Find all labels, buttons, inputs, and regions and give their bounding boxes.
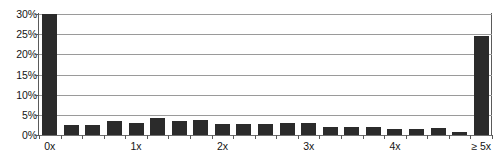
x-tick-mark: [298, 135, 299, 139]
y-tick-mark-5%: [35, 115, 39, 116]
bar: [323, 127, 338, 135]
bar: [280, 123, 295, 135]
y-tick-label-10%: 10%: [1, 90, 37, 100]
y-tick-mark-15%: [35, 75, 39, 76]
x-tick-label-2x: 2x: [217, 140, 228, 152]
gridline-10: [39, 95, 492, 96]
y-tick-label-30%: 30%: [1, 9, 37, 19]
plot-area: [39, 14, 492, 135]
y-tick-mark-20%: [35, 54, 39, 55]
y-tick-label-5%: 5%: [1, 110, 37, 120]
bar: [42, 14, 57, 135]
y-tick-mark-0%: [35, 135, 39, 136]
gridline-25: [39, 34, 492, 35]
x-tick-mark: [147, 135, 148, 139]
bar: [215, 124, 230, 135]
y-axis-labels: 0%5%10%15%20%25%30%: [0, 0, 37, 160]
x-tick-mark: [233, 135, 234, 139]
y-tick-mark-10%: [35, 95, 39, 96]
gridline-30: [39, 14, 492, 15]
bar-chart: 0%5%10%15%20%25%30% 0x1x2x3x4x≥ 5x: [0, 0, 497, 160]
bar: [301, 123, 316, 135]
x-tick-mark: [168, 135, 169, 139]
y-tick-label-20%: 20%: [1, 49, 37, 59]
bar: [236, 124, 251, 135]
y-tick-label-15%: 15%: [1, 70, 37, 80]
x-tick-mark: [363, 135, 364, 139]
x-tick-mark: [427, 135, 428, 139]
x-tick-mark: [190, 135, 191, 139]
x-tick-label-0x: 0x: [44, 140, 55, 152]
bar: [258, 124, 273, 135]
bar: [366, 127, 381, 135]
x-tick-mark: [492, 135, 493, 139]
x-tick-mark: [82, 135, 83, 139]
x-tick-mark: [319, 135, 320, 139]
x-tick-mark: [61, 135, 62, 139]
x-tick-mark: [384, 135, 385, 139]
x-tick-mark: [125, 135, 126, 139]
y-tick-label-0%: 0%: [1, 130, 37, 140]
bar: [193, 120, 208, 135]
y-tick-mark-30%: [35, 14, 39, 15]
bar: [172, 121, 187, 135]
bar: [129, 123, 144, 135]
x-tick-mark: [470, 135, 471, 139]
x-tick-label-4x: 4x: [389, 140, 400, 152]
x-tick-mark: [276, 135, 277, 139]
x-tick-label-1x: 1x: [131, 140, 142, 152]
x-tick-mark: [255, 135, 256, 139]
bar: [85, 125, 100, 135]
x-tick-mark: [212, 135, 213, 139]
x-axis-labels: 0x1x2x3x4x≥ 5x: [0, 140, 497, 160]
x-tick-mark: [406, 135, 407, 139]
bar: [474, 36, 489, 135]
x-tick-label-5x: ≥ 5x: [472, 140, 491, 152]
x-tick-mark: [449, 135, 450, 139]
x-tick-mark: [104, 135, 105, 139]
bar: [344, 127, 359, 135]
x-tick-mark: [39, 135, 40, 139]
y-tick-label-25%: 25%: [1, 29, 37, 39]
gridline-15: [39, 75, 492, 76]
bar: [107, 121, 122, 135]
x-tick-mark: [341, 135, 342, 139]
bar: [64, 125, 79, 135]
gridline-5: [39, 115, 492, 116]
y-tick-mark-25%: [35, 34, 39, 35]
gridline-20: [39, 54, 492, 55]
bar: [431, 128, 446, 135]
x-tick-label-3x: 3x: [303, 140, 314, 152]
bar: [150, 118, 165, 135]
